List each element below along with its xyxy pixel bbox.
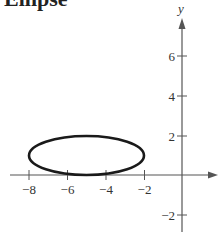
y-tick-label: 6 bbox=[169, 49, 176, 64]
x-tick-label: −8 bbox=[22, 182, 36, 197]
x-tick-label: −6 bbox=[61, 182, 75, 197]
x-tick-label: −4 bbox=[99, 182, 113, 197]
y-axis-label: y bbox=[176, 1, 184, 16]
chart-canvas: y −8 −6 −4 −2 6 4 2 −2 bbox=[0, 0, 220, 238]
ellipse-curve bbox=[29, 136, 144, 175]
y-axis bbox=[179, 18, 186, 232]
x-tick-label: −2 bbox=[138, 182, 152, 197]
y-tick-label: 4 bbox=[169, 89, 176, 104]
y-tick-label: −2 bbox=[161, 208, 175, 223]
y-tick-label: 2 bbox=[169, 129, 176, 144]
x-axis-arrow-icon bbox=[208, 172, 218, 179]
y-axis-arrow-icon bbox=[179, 18, 186, 29]
y-ticks: 6 4 2 −2 bbox=[161, 49, 187, 223]
